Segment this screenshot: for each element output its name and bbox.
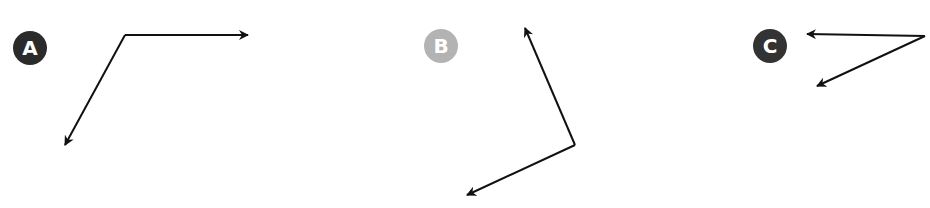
arrow-c xyxy=(807,34,925,36)
arrow-b xyxy=(467,145,575,195)
arrow-b xyxy=(525,28,575,145)
vector-diagram xyxy=(0,0,930,208)
arrow-group xyxy=(65,28,925,195)
arrow-c xyxy=(817,36,925,86)
arrow-a xyxy=(65,35,125,145)
